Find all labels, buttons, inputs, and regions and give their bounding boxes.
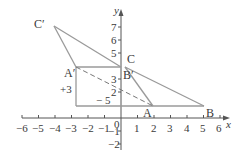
x-tick-label: −5 xyxy=(32,122,44,134)
x-tick-label: 1 xyxy=(134,122,140,134)
y-tick-label: 6 xyxy=(111,34,117,46)
point-label-c-prime: C′ xyxy=(34,17,45,31)
y-tick-label: −2 xyxy=(108,138,120,150)
coordinate-diagram: −6 −5 −4 −3 −2 −1 1 2 3 4 5 6 7 6 5 3 2 … xyxy=(0,0,242,165)
vertical-shift-label: +3 xyxy=(60,83,72,95)
x-tick-label: 6 xyxy=(216,122,222,134)
y-axis-arrow-icon xyxy=(119,9,124,16)
origin-label: 0 xyxy=(114,118,120,130)
x-tick-label: 2 xyxy=(151,122,157,134)
x-tick-label: −3 xyxy=(65,122,77,134)
y-tick-label: 3 xyxy=(111,73,117,85)
point-label-b-prime: B′ xyxy=(123,68,134,82)
y-tick-label: 5 xyxy=(111,47,117,59)
point-label-a-prime: A′ xyxy=(64,66,76,80)
point-label-b: B xyxy=(206,106,214,120)
x-tick-label: 3 xyxy=(167,122,173,134)
diagram-svg: −6 −5 −4 −3 −2 −1 1 2 3 4 5 6 7 6 5 3 2 … xyxy=(0,0,242,165)
x-tick-label: 4 xyxy=(184,122,190,134)
triangle-abc xyxy=(125,67,204,106)
x-axis xyxy=(22,115,230,121)
horizontal-shift-label: − 5 xyxy=(96,94,111,106)
x-tick-label: 5 xyxy=(200,122,206,134)
x-tick-label: −2 xyxy=(82,122,94,134)
x-tick-label: −6 xyxy=(16,122,28,134)
x-tick-label: −4 xyxy=(49,122,61,134)
y-tick-labels: 7 6 5 3 2 −1 −2 xyxy=(108,21,120,150)
y-tick-label: 2 xyxy=(111,86,117,98)
y-axis-label: y xyxy=(113,4,119,16)
x-axis-label: x xyxy=(225,118,231,130)
point-label-a: A xyxy=(143,106,152,120)
point-label-c: C xyxy=(127,52,135,66)
y-tick-label: 7 xyxy=(111,21,117,33)
